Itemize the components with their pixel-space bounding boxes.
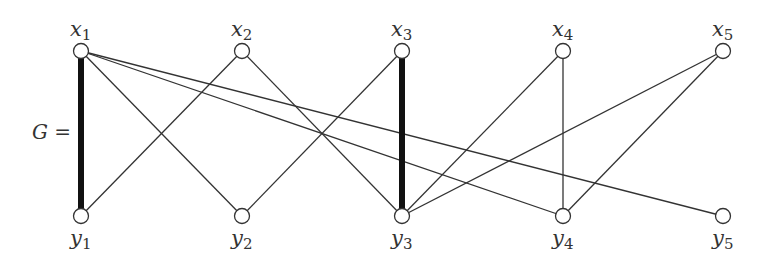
label-y1: y1 [69,226,91,253]
edges [81,51,723,216]
node-y1 [74,209,89,224]
node-y3 [395,209,410,224]
label-x2: x2 [231,17,252,44]
graph-label: G = [32,120,71,144]
label-y3: y3 [390,226,412,253]
node-y5 [716,209,731,224]
label-y4: y4 [551,226,573,253]
edge-x4-y3 [402,51,563,216]
node-x1 [74,44,89,59]
label-y5: y5 [711,226,733,253]
node-y4 [556,209,571,224]
node-x3 [395,44,410,59]
bipartite-graph: G = x1x2x3x4x5y1y2y3y4y5 [0,0,762,270]
label-x1: x1 [70,17,91,44]
node-x2 [235,44,250,59]
node-x5 [716,44,731,59]
label-x3: x3 [391,17,412,44]
edge-x5-y4 [563,51,723,216]
node-y2 [235,209,250,224]
node-x4 [556,44,571,59]
label-y2: y2 [230,226,252,253]
label-x4: x4 [552,17,573,44]
label-x5: x5 [712,17,733,44]
